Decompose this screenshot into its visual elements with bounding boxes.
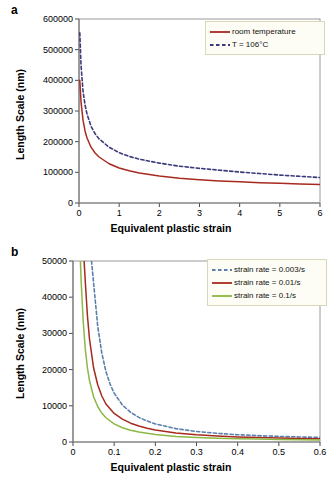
solid-line-icon bbox=[210, 27, 230, 37]
solid-line-icon bbox=[212, 278, 232, 288]
y-tick-label: 300000 bbox=[43, 106, 73, 116]
legend-item: strain rate = 0.1/s bbox=[212, 289, 321, 302]
y-tick-label: 10000 bbox=[42, 401, 67, 411]
legend-item: strain rate = 0.003/s bbox=[212, 263, 321, 276]
y-tick-label: 500000 bbox=[43, 45, 73, 55]
y-tick-label: 400000 bbox=[43, 75, 73, 85]
legend-item: room temperature bbox=[210, 25, 319, 38]
panel-a: a Equivalent plastic strain Length Scale… bbox=[0, 0, 334, 239]
x-tick-label: 6 bbox=[317, 208, 322, 218]
y-tick-label: 200000 bbox=[43, 137, 73, 147]
x-tick-label: 1 bbox=[117, 208, 122, 218]
legend-item: strain rate = 0.01/s bbox=[212, 276, 321, 289]
y-tick-label: 600000 bbox=[43, 14, 73, 24]
figure-container: a Equivalent plastic strain Length Scale… bbox=[0, 0, 334, 478]
dashed-line-icon bbox=[212, 265, 232, 275]
panel-a-legend: room temperatureT = 106°C bbox=[205, 21, 325, 55]
legend-label: strain rate = 0.01/s bbox=[234, 278, 300, 287]
panel-a-yaxis-title: Length Scale (nm) bbox=[14, 69, 26, 160]
y-tick-label: 0 bbox=[68, 198, 73, 208]
dashed-line-icon bbox=[210, 40, 230, 50]
y-tick-label: 40000 bbox=[42, 292, 67, 302]
y-tick-label: 20000 bbox=[42, 365, 67, 375]
panel-b-yaxis-title: Length Scale (nm) bbox=[14, 308, 26, 399]
y-tick-label: 0 bbox=[62, 437, 67, 447]
x-tick-label: 0.6 bbox=[314, 447, 327, 457]
panel-b: b Equivalent plastic strain Length Scale… bbox=[0, 239, 334, 478]
x-tick-label: 0.1 bbox=[108, 447, 121, 457]
y-tick-label: 100000 bbox=[43, 167, 73, 177]
legend-label: strain rate = 0.003/s bbox=[234, 265, 305, 274]
y-tick-label: 30000 bbox=[42, 328, 67, 338]
panel-a-xaxis-title: Equivalent plastic strain bbox=[4, 222, 334, 234]
legend-item: T = 106°C bbox=[210, 38, 319, 51]
panel-b-legend: strain rate = 0.003/sstrain rate = 0.01/… bbox=[207, 259, 327, 306]
x-tick-label: 0 bbox=[76, 208, 81, 218]
x-tick-label: 0.5 bbox=[273, 447, 286, 457]
panel-b-xaxis-title: Equivalent plastic strain bbox=[4, 461, 334, 473]
x-tick-label: 4 bbox=[237, 208, 242, 218]
y-tick-label: 50000 bbox=[42, 256, 67, 266]
solid-line-icon bbox=[212, 291, 232, 301]
x-tick-label: 0.3 bbox=[190, 447, 203, 457]
x-tick-label: 5 bbox=[277, 208, 282, 218]
x-tick-label: 3 bbox=[197, 208, 202, 218]
x-tick-label: 0 bbox=[70, 447, 75, 457]
legend-label: strain rate = 0.1/s bbox=[234, 291, 296, 300]
x-tick-label: 2 bbox=[157, 208, 162, 218]
x-tick-label: 0.4 bbox=[231, 447, 244, 457]
legend-label: room temperature bbox=[232, 27, 296, 36]
legend-label: T = 106°C bbox=[232, 40, 268, 49]
x-tick-label: 0.2 bbox=[149, 447, 162, 457]
